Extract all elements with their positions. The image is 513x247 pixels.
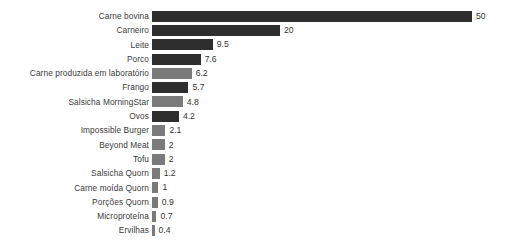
bar-row: Frango5.7 (0, 80, 513, 94)
bar-track: 2 (152, 138, 513, 152)
bar-value-label: 5.7 (188, 83, 204, 92)
bar-track: 0.7 (152, 209, 513, 223)
bar-category-label: Carne produzida em laboratório (0, 69, 152, 77)
bar-track: 6.2 (152, 66, 513, 80)
bar-track: 2 (152, 152, 513, 166)
bar-category-label: Frango (0, 83, 152, 91)
bar-row: Carneiro20 (0, 23, 513, 37)
bar-value-label: 20 (280, 26, 294, 35)
bar (152, 82, 188, 93)
bar-value-label: 0.4 (155, 226, 171, 235)
bar-track: 0.4 (152, 223, 513, 237)
bar-category-label: Carneiro (0, 26, 152, 34)
bar-category-label: Ovos (0, 112, 152, 120)
bar (152, 139, 165, 150)
bar-value-label: 7.6 (201, 55, 217, 64)
bar-category-label: Tofu (0, 155, 152, 163)
bar-category-label: Porco (0, 55, 152, 63)
bar-row: Carne produzida em laboratório6.2 (0, 66, 513, 80)
bar (152, 154, 165, 165)
bar-track: 50 (152, 9, 513, 23)
bar-track: 20 (152, 23, 513, 37)
bar-row: Carne moída Quorn1 (0, 181, 513, 195)
bar (152, 96, 183, 107)
bar-category-label: Porções Quorn (0, 198, 152, 206)
bar-value-label: 1.2 (160, 169, 176, 178)
bar-track: 4.8 (152, 95, 513, 109)
bar-category-label: Ervilhas (0, 226, 152, 234)
bar-row: Beyond Meat2 (0, 138, 513, 152)
bar-value-label: 9.5 (213, 40, 229, 49)
bar-track: 1 (152, 181, 513, 195)
bar-track: 7.6 (152, 52, 513, 66)
bar-row: Impossible Burger2.1 (0, 123, 513, 137)
bar-category-label: Salsicha MorningStar (0, 98, 152, 106)
bar-row: Tofu2 (0, 152, 513, 166)
bar-category-label: Beyond Meat (0, 141, 152, 149)
bar (152, 111, 179, 122)
bar-value-label: 2 (165, 155, 174, 164)
bar-value-label: 6.2 (192, 69, 208, 78)
bar-chart: Carne bovina50Carneiro20Leite9.5Porco7.6… (0, 0, 513, 247)
bar-track: 4.2 (152, 109, 513, 123)
bar-value-label: 0.9 (158, 198, 174, 207)
bar-row: Salsicha Quorn1.2 (0, 166, 513, 180)
bar-category-label: Carne bovina (0, 12, 152, 20)
bar-category-label: Carne moída Quorn (0, 184, 152, 192)
bar-row: Ovos4.2 (0, 109, 513, 123)
bar-value-label: 50 (472, 12, 486, 21)
bar (152, 11, 472, 22)
bar-row: Leite9.5 (0, 38, 513, 52)
bar-row: Carne bovina50 (0, 9, 513, 23)
bar-category-label: Salsicha Quorn (0, 169, 152, 177)
bar (152, 125, 165, 136)
bar-category-label: Microproteína (0, 212, 152, 220)
bar-track: 2.1 (152, 123, 513, 137)
bar-row: Salsicha MorningStar4.8 (0, 95, 513, 109)
bar-track: 1.2 (152, 166, 513, 180)
bar-value-label: 1 (158, 183, 167, 192)
bar-value-label: 4.2 (179, 112, 195, 121)
bar-value-label: 0.7 (156, 212, 172, 221)
bar-row: Microproteína0.7 (0, 209, 513, 223)
bar-value-label: 2 (165, 141, 174, 150)
bar-value-label: 2.1 (165, 126, 181, 135)
chart-plot-area: Carne bovina50Carneiro20Leite9.5Porco7.6… (0, 9, 513, 238)
bar (152, 25, 280, 36)
bar-row: Porções Quorn0.9 (0, 195, 513, 209)
bar (152, 68, 192, 79)
bar-track: 5.7 (152, 80, 513, 94)
bar-value-label: 4.8 (183, 98, 199, 107)
bar-category-label: Impossible Burger (0, 126, 152, 134)
bar-track: 0.9 (152, 195, 513, 209)
bar-category-label: Leite (0, 41, 152, 49)
bar-row: Ervilhas0.4 (0, 223, 513, 237)
bar (152, 168, 160, 179)
bar (152, 39, 213, 50)
bar (152, 54, 201, 65)
bar-track: 9.5 (152, 38, 513, 52)
bar-row: Porco7.6 (0, 52, 513, 66)
